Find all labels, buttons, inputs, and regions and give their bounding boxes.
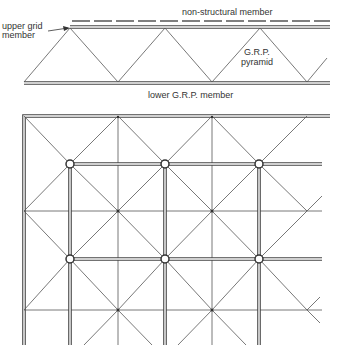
label-non-structural-member: non-structural member (182, 8, 273, 17)
grp-pyramid-diagonals (24, 28, 327, 82)
label-pyramid: pyramid (241, 58, 273, 67)
label-grp: G.R.P. (244, 48, 270, 57)
label-upper-grid-member: member (2, 31, 35, 40)
label-lower-grp-member: lower G.R.P. member (148, 91, 233, 100)
upper-grid-members-plan (70, 164, 322, 345)
truss-diagram (0, 0, 337, 357)
leader-arrow (48, 26, 70, 31)
